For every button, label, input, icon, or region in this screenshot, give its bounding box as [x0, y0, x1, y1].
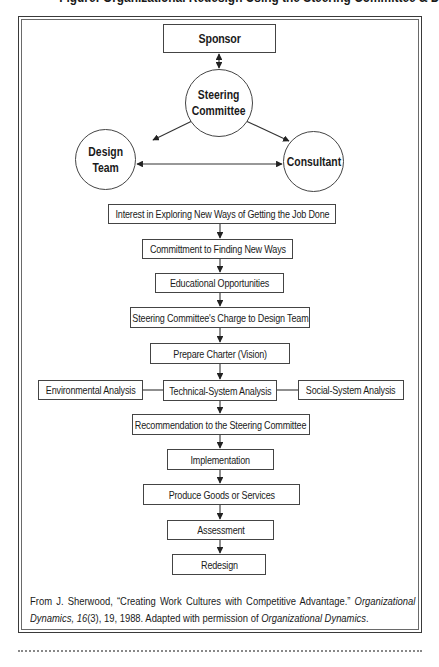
citation-end: .: [366, 612, 369, 624]
sponsor-label: Sponsor: [198, 31, 240, 46]
step-technical-system-label: Technical-System Analysis: [169, 385, 271, 397]
design-team-label: Design Team: [88, 144, 123, 176]
figure-citation: From J. Sherwood, “Creating Work Culture…: [30, 593, 416, 627]
step-interest-label: Interest in Exploring New Ways of Gettin…: [115, 208, 329, 220]
step-produce: Produce Goods or Services: [143, 484, 300, 505]
step-educational-label: Educational Opportunities: [170, 277, 269, 289]
step-produce-label: Produce Goods or Services: [168, 489, 274, 501]
step-redesign: Redesign: [172, 554, 266, 575]
step-steering-charge-label: Steering Committee's Charge to Design Te…: [132, 312, 308, 324]
social-system-analysis-box: Social-System Analysis: [298, 380, 404, 400]
step-implementation-label: Implementation: [191, 454, 250, 466]
environmental-analysis-box: Environmental Analysis: [38, 380, 143, 400]
step-implementation: Implementation: [167, 449, 274, 470]
step-commitment-label: Committment to Finding New Ways: [150, 243, 286, 255]
step-redesign-label: Redesign: [201, 559, 238, 571]
step-educational: Educational Opportunities: [155, 273, 284, 293]
step-recommendation-label: Recommendation to the Steering Committee: [135, 419, 306, 431]
consultant-label: Consultant: [286, 154, 340, 170]
steering-committee-circle: Steering Committee: [185, 69, 253, 137]
step-commitment: Committment to Finding New Ways: [142, 239, 293, 259]
social-system-analysis-label: Social-System Analysis: [306, 384, 396, 396]
step-technical-system: Technical-System Analysis: [163, 380, 277, 401]
step-recommendation: Recommendation to the Steering Committee: [132, 414, 310, 435]
step-interest: Interest in Exploring New Ways of Gettin…: [108, 204, 336, 224]
sponsor-box: Sponsor: [163, 24, 276, 53]
steering-to-consultant-arrow: [246, 121, 289, 141]
citation-details: (3), 19, 1988. Adapted with permission o…: [87, 612, 261, 624]
consultant-circle: Consultant: [283, 131, 344, 192]
dotted-separator: [18, 650, 422, 652]
step-assessment-label: Assessment: [197, 524, 244, 536]
step-assessment: Assessment: [167, 520, 274, 540]
steering-to-design-arrow: [153, 121, 192, 140]
step-steering-charge: Steering Committee's Charge to Design Te…: [130, 307, 310, 328]
citation-volume: 16: [77, 612, 87, 624]
design-team-circle: Design Team: [75, 129, 136, 190]
citation-journal-2: Organizational Dynamics: [261, 612, 366, 624]
steering-committee-label: Steering Committee: [192, 87, 246, 119]
step-prepare-charter-label: Prepare Charter (Vision): [173, 348, 267, 360]
step-prepare-charter: Prepare Charter (Vision): [150, 343, 290, 364]
citation-prefix: From J. Sherwood, “Creating Work Culture…: [30, 595, 355, 607]
environmental-analysis-label: Environmental Analysis: [46, 384, 136, 396]
